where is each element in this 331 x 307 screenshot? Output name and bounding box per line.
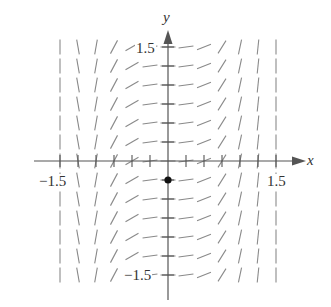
slope-segment: [197, 196, 211, 202]
slope-segment: [126, 81, 139, 89]
y-tick-label-bottom: −1.5: [123, 268, 152, 283]
slope-segment: [179, 141, 194, 143]
slope-segment: [77, 59, 80, 74]
slope-segment: [126, 233, 139, 241]
x-tick-label-right: 1.5: [266, 174, 287, 189]
slope-segment: [197, 82, 211, 88]
slope-segment: [110, 97, 117, 110]
slope-segment: [110, 78, 117, 91]
slope-segment: [257, 249, 259, 264]
slope-segment: [77, 268, 80, 283]
slope-segment: [126, 100, 139, 108]
slope-segment: [110, 40, 117, 53]
slope-segment: [126, 214, 139, 222]
slope-segment: [110, 268, 117, 281]
y-axis-label: y: [163, 10, 170, 25]
x-axis-label: x: [307, 153, 314, 168]
slope-segment: [197, 177, 211, 183]
slope-segment: [218, 269, 226, 282]
slope-segment: [179, 65, 194, 67]
slope-segment: [95, 268, 98, 283]
slope-segment: [197, 272, 211, 278]
slope-segment: [95, 211, 98, 226]
slope-segment: [257, 116, 259, 131]
slope-segment: [218, 250, 226, 263]
y-tick-label-top: 1.5: [135, 41, 156, 56]
slope-segment: [110, 116, 117, 129]
slope-segment: [218, 231, 226, 244]
slope-segment: [143, 179, 158, 181]
x-tick-label-left: −1.5: [38, 174, 67, 189]
slope-segment: [95, 78, 98, 93]
slope-segment: [77, 40, 80, 55]
slope-segment: [179, 236, 194, 238]
slope-segment: [95, 97, 98, 112]
initial-point: [164, 176, 171, 183]
slope-segment: [95, 40, 98, 55]
slope-segment: [257, 78, 259, 93]
slope-segment: [126, 119, 139, 127]
slope-segment: [110, 230, 117, 243]
slope-field-figure: [0, 0, 331, 307]
slope-segment: [238, 268, 241, 283]
slope-segment: [197, 234, 211, 240]
slope-segment: [179, 179, 194, 181]
slope-segment: [126, 138, 139, 146]
slope-segment: [95, 249, 98, 264]
slope-segment: [143, 141, 158, 143]
slope-segment: [77, 173, 80, 188]
slope-segment: [238, 59, 241, 74]
slope-segment: [143, 255, 158, 257]
slope-segment: [77, 116, 80, 131]
slope-segment: [77, 249, 80, 264]
axes: [34, 30, 306, 300]
slope-segment: [179, 274, 194, 276]
slope-segment: [238, 230, 241, 245]
slope-segment: [77, 211, 80, 226]
slope-segment: [77, 192, 80, 207]
slope-segment: [179, 255, 194, 257]
slope-segment: [77, 78, 80, 93]
slope-segment: [257, 268, 259, 283]
slope-segment: [77, 135, 80, 150]
slope-segment: [197, 63, 211, 69]
slope-segment: [218, 174, 226, 187]
slope-segment: [95, 135, 98, 150]
slope-segment: [179, 46, 194, 48]
slope-segment: [218, 41, 226, 54]
slope-segment: [257, 192, 259, 207]
slope-segment: [218, 193, 226, 206]
slope-segment: [143, 65, 158, 67]
slope-segment: [218, 136, 226, 149]
slope-segment: [257, 173, 259, 188]
slope-segment: [257, 59, 259, 74]
slope-segment: [77, 97, 80, 112]
slope-segment: [257, 211, 259, 226]
slope-segment: [110, 192, 117, 205]
slope-segment: [238, 78, 241, 93]
slope-segment: [197, 215, 211, 221]
slope-segment: [218, 79, 226, 92]
slope-segment: [238, 97, 241, 112]
slope-segment: [126, 62, 139, 70]
slope-segment: [257, 230, 259, 245]
slope-segment: [197, 101, 211, 107]
slope-segment: [179, 217, 194, 219]
x-axis-arrow-icon: [292, 157, 306, 166]
slope-segment: [179, 84, 194, 86]
slope-segment: [143, 198, 158, 200]
slope-segment: [126, 176, 139, 184]
slope-segment: [95, 173, 98, 188]
slope-segment: [197, 44, 211, 50]
slope-segment: [95, 59, 98, 74]
slope-segment: [218, 98, 226, 111]
slope-segment: [238, 211, 241, 226]
slope-segment: [238, 40, 241, 55]
slope-segment: [143, 103, 158, 105]
y-axis-arrow-icon: [164, 30, 173, 44]
slope-segment: [126, 195, 139, 203]
slope-segment: [95, 192, 98, 207]
slope-segment: [143, 236, 158, 238]
slope-segment: [218, 117, 226, 130]
slope-segment: [143, 217, 158, 219]
